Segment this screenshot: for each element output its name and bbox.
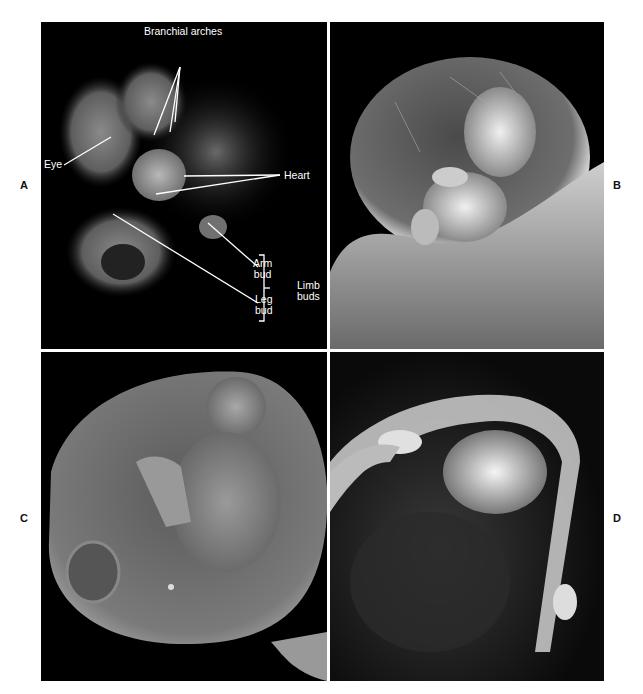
embryo-b-illustration <box>330 22 604 349</box>
annotation-leg-bud: Leg bud <box>255 294 273 316</box>
panel-label-d: D <box>613 512 621 524</box>
annotation-eye: Eye <box>44 159 62 170</box>
annotation-heart: Heart <box>284 170 310 181</box>
panel-c-fetus-image <box>41 352 327 681</box>
annotation-limb-buds: Limb buds <box>297 280 320 302</box>
fetus-c-illustration <box>41 352 327 681</box>
panel-label-a: A <box>20 179 28 191</box>
panel-a-embryo-image: Branchial arches Eye Heart Arm bud Leg b… <box>41 22 327 349</box>
embryo-a-illustration <box>41 22 327 349</box>
panel-b-embryo-image <box>330 22 604 349</box>
panel-label-b: B <box>613 179 621 191</box>
annotation-leg-bud-line2: bud <box>255 305 273 316</box>
annotation-arm-bud-line2: bud <box>253 269 272 280</box>
annotation-limb-buds-line2: buds <box>297 291 320 302</box>
annotation-arm-bud: Arm bud <box>253 258 272 280</box>
panel-d-fetus-image <box>330 352 604 681</box>
panel-label-c: C <box>20 512 28 524</box>
annotation-branchial-arches: Branchial arches <box>144 26 222 37</box>
fetus-d-illustration <box>330 352 604 681</box>
